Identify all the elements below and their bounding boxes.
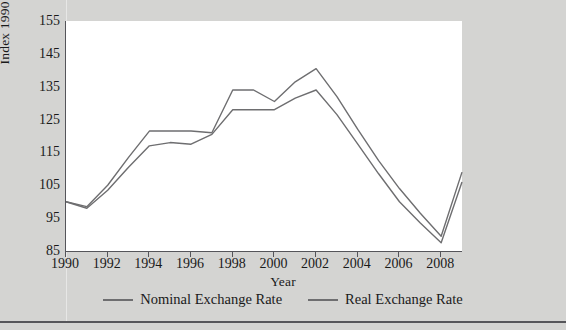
y-tick-label: 125 — [30, 113, 60, 127]
legend-item: Real Exchange Rate — [308, 291, 463, 308]
series-lines — [66, 21, 462, 251]
legend-label: Nominal Exchange Rate — [140, 291, 282, 308]
y-tick-label: 105 — [30, 178, 60, 192]
footer-divider — [0, 321, 566, 323]
chart-figure: Index 1990 = 100 1551451351251151059585 … — [0, 0, 566, 330]
legend-label: Real Exchange Rate — [345, 291, 463, 308]
legend-item: Nominal Exchange Rate — [103, 291, 282, 308]
y-tick-label: 155 — [30, 14, 60, 28]
x-axis-title: Year — [0, 274, 566, 290]
y-tick-label: 95 — [30, 211, 60, 225]
y-axis-title: Index 1990 = 100 — [0, 0, 13, 100]
y-tick-label: 115 — [30, 145, 60, 159]
series-line-real — [66, 90, 462, 243]
legend-line-icon — [308, 299, 338, 301]
y-tick-label: 145 — [30, 47, 60, 61]
legend-line-icon — [103, 299, 133, 301]
series-line-nominal — [66, 69, 462, 237]
chart-legend: Nominal Exchange RateReal Exchange Rate — [0, 291, 566, 308]
plot-area — [65, 21, 462, 252]
y-tick-label: 135 — [30, 80, 60, 94]
x-tick-label: 2008 — [410, 256, 470, 272]
